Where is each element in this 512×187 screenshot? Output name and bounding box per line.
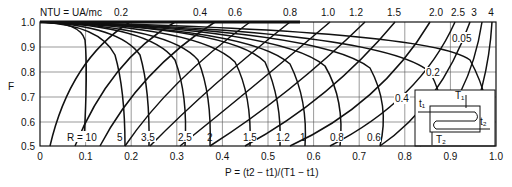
inset-label-t1: t₁	[419, 98, 426, 109]
svg-text:0.5: 0.5	[21, 141, 35, 152]
svg-text:1.2: 1.2	[349, 7, 363, 18]
svg-text:1.5: 1.5	[243, 132, 257, 143]
inset-label-T2: T₂	[436, 134, 446, 145]
svg-text:0.6: 0.6	[228, 7, 242, 18]
svg-text:0.6: 0.6	[21, 117, 35, 128]
svg-text:2.5: 2.5	[178, 132, 192, 143]
x-axis-ticks: 0 0.1 0.2 0.3 0.4 0.5 0.6 0.7 0.8 0.9 1.…	[37, 151, 503, 162]
svg-text:0.1: 0.1	[79, 151, 93, 162]
svg-text:0.6: 0.6	[367, 132, 381, 143]
svg-text:0.4: 0.4	[215, 151, 229, 162]
ntu-header: NTU = UA/mc	[40, 7, 102, 18]
svg-text:0.2: 0.2	[124, 151, 138, 162]
inset-label-t2: t₂	[480, 116, 487, 127]
y-axis-ticks: 1.0 0.9 0.8 0.7 0.6 0.5	[21, 17, 35, 152]
svg-text:0.5: 0.5	[261, 151, 275, 162]
svg-text:0: 0	[37, 151, 43, 162]
svg-text:3.5: 3.5	[141, 132, 155, 143]
svg-text:0.8: 0.8	[330, 132, 344, 143]
svg-text:2.5: 2.5	[451, 7, 465, 18]
svg-text:0.8: 0.8	[21, 67, 35, 78]
svg-text:0.8: 0.8	[283, 7, 297, 18]
svg-text:0.3: 0.3	[170, 151, 184, 162]
svg-text:0.4: 0.4	[193, 7, 207, 18]
svg-text:0.7: 0.7	[352, 151, 366, 162]
svg-text:0.7: 0.7	[21, 92, 35, 103]
svg-text:1.2: 1.2	[276, 132, 290, 143]
svg-text:1.0: 1.0	[489, 151, 503, 162]
correction-factor-chart: t₁ T₁ t₂ T₂ 1.0 0.9 0.8 0.7 0.6 0.5 F 0 …	[0, 0, 512, 187]
y-axis-label: F	[8, 81, 14, 92]
svg-text:0.8: 0.8	[398, 151, 412, 162]
svg-text:0.2: 0.2	[114, 7, 128, 18]
inset-label-T1: T₁	[455, 90, 465, 101]
svg-text:0.9: 0.9	[21, 42, 35, 53]
svg-text:0.05: 0.05	[452, 33, 472, 44]
svg-text:0.9: 0.9	[443, 151, 457, 162]
svg-text:0.4: 0.4	[395, 93, 409, 104]
svg-text:1.0: 1.0	[321, 7, 335, 18]
svg-text:1.0: 1.0	[21, 17, 35, 28]
svg-text:1: 1	[300, 132, 306, 143]
svg-text:2: 2	[207, 132, 213, 143]
svg-text:3: 3	[471, 7, 477, 18]
svg-text:0.6: 0.6	[307, 151, 321, 162]
svg-text:0.2: 0.2	[426, 67, 440, 78]
svg-text:R = 10: R = 10	[67, 132, 97, 143]
svg-text:5: 5	[117, 132, 123, 143]
x-axis-label: P = (t2 − t1)/(T1 − t1)	[225, 167, 318, 178]
ntu-top-labels: 0.2 0.4 0.6 0.8 1.0 1.2 1.5 2.0 2.5 3 4	[114, 7, 494, 18]
svg-text:2.0: 2.0	[429, 7, 443, 18]
svg-text:4: 4	[488, 7, 494, 18]
heat-exchanger-inset: t₁ T₁ t₂ T₂	[415, 90, 495, 146]
svg-text:1.5: 1.5	[387, 7, 401, 18]
